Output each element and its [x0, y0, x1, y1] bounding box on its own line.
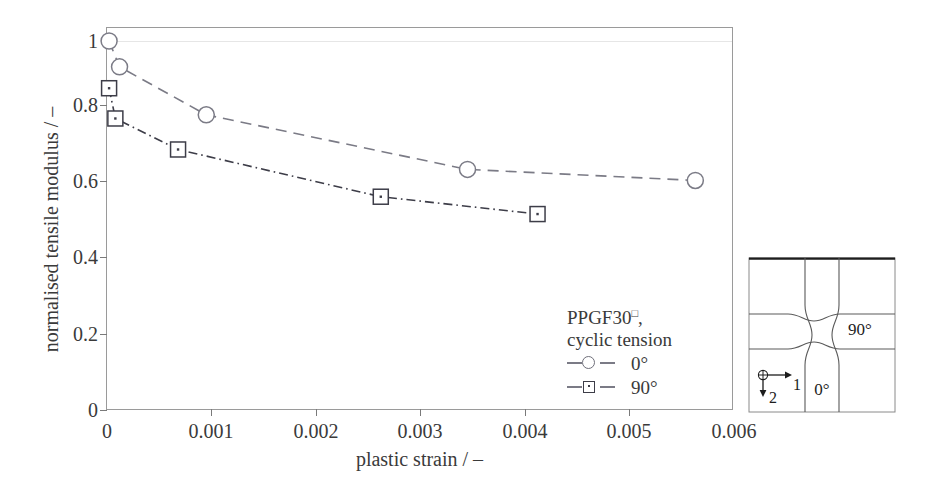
legend-label-90deg: 90° — [631, 377, 658, 398]
x-tick-label-0.003: 0.003 — [398, 420, 443, 443]
legend-material-name: PPGF30 — [567, 307, 631, 328]
legend-label-0deg: 0° — [631, 353, 648, 374]
y-tick-0.4 — [100, 257, 107, 258]
data-point-marker — [460, 161, 476, 177]
x-tick-label-0.001: 0.001 — [189, 420, 234, 443]
plot-area: 0 0.2 0.4 0.6 0.8 1 0 0.001 0.002 0.003 … — [106, 27, 733, 410]
y-tick-label-1: 1 — [88, 30, 98, 53]
series-90deg — [102, 81, 545, 222]
inset-label-0deg: 0° — [814, 380, 829, 399]
x-tick-label-0.002: 0.002 — [294, 420, 339, 443]
data-point-marker — [198, 107, 214, 123]
legend-loading-mode: cyclic tension — [567, 329, 727, 350]
x-tick-label-0.005: 0.005 — [607, 420, 652, 443]
chart-legend: PPGF30□, cyclic tension 0° 90° — [567, 307, 727, 398]
specimen-inset: 90° 0° 1 2 — [748, 257, 896, 413]
inset-axis-2-label: 2 — [769, 389, 777, 406]
inset-axis-1-label: 1 — [793, 376, 801, 393]
legend-material-suffix: , — [638, 307, 643, 328]
data-point-marker-dot — [536, 213, 538, 215]
data-point-marker — [687, 172, 703, 188]
data-point-marker-dot — [108, 87, 110, 89]
figure-container: 0 0.2 0.4 0.6 0.8 1 0 0.001 0.002 0.003 … — [0, 0, 927, 487]
inset-label-90deg: 90° — [848, 320, 872, 339]
x-tick-label-0.006: 0.006 — [712, 420, 757, 443]
x-tick-label-0: 0 — [102, 420, 112, 443]
data-point-marker — [101, 33, 117, 49]
legend-marker-circle-icon — [567, 356, 619, 370]
legend-marker-square-icon — [567, 380, 619, 394]
y-tick-0.2 — [100, 334, 107, 335]
y-tick-0 — [100, 410, 107, 411]
y-tick-label-0.6: 0.6 — [73, 170, 98, 193]
y-tick-label-0.4: 0.4 — [73, 246, 98, 269]
y-tick-label-0: 0 — [88, 399, 98, 422]
series-line-0° — [109, 41, 695, 180]
y-axis-title: normalised tensile modulus / – — [40, 38, 63, 421]
data-point-marker-dot — [177, 148, 179, 150]
y-tick-label-0.8: 0.8 — [73, 94, 98, 117]
y-tick-label-0.2: 0.2 — [73, 323, 98, 346]
x-axis-title: plastic strain / – — [106, 448, 733, 471]
y-tick-0.6 — [100, 181, 107, 182]
series-0deg — [101, 33, 703, 188]
y-tick-0.8 — [100, 105, 107, 106]
legend-entry-90deg[interactable]: 90° — [567, 377, 727, 398]
data-point-marker — [112, 59, 128, 75]
x-tick-label-0.004: 0.004 — [503, 420, 548, 443]
legend-entry-0deg[interactable]: 0° — [567, 353, 727, 374]
data-point-marker-dot — [114, 117, 116, 119]
legend-material-title: PPGF30□, — [567, 307, 727, 329]
specimen-drawing: 90° 0° 1 2 — [748, 257, 896, 413]
data-point-marker-dot — [380, 196, 382, 198]
